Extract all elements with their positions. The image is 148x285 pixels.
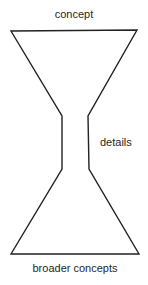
- details-label: details: [100, 136, 132, 149]
- hourglass-diagram: concept details broader concepts: [0, 0, 148, 285]
- broader-concepts-label: broader concepts: [0, 262, 148, 275]
- concept-label: concept: [0, 8, 148, 21]
